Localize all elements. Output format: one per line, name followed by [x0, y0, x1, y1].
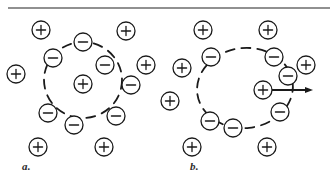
- shell-charges-b: [201, 48, 297, 137]
- charge-positive-background: [259, 21, 277, 39]
- panel-b: [161, 21, 315, 156]
- charge-negative-shell: [279, 67, 297, 85]
- charge-screening-diagram: [0, 0, 336, 180]
- charge-positive-background: [161, 92, 179, 110]
- charge-positive-background: [297, 56, 315, 74]
- charge-positive-background: [194, 21, 212, 39]
- charge-negative-shell: [271, 103, 289, 121]
- charge-positive-central: [74, 75, 92, 93]
- charge-positive-background: [7, 65, 25, 83]
- charge-positive-background: [173, 59, 191, 77]
- charge-negative-shell: [201, 112, 219, 130]
- charge-negative-shell: [107, 107, 125, 125]
- charge-negative-shell: [96, 56, 114, 74]
- charge-negative-shell: [202, 48, 220, 66]
- charge-negative-shell: [65, 116, 83, 134]
- panel-label-b: b.: [190, 160, 199, 172]
- figure-container: a. b.: [0, 0, 336, 180]
- charge-negative-shell: [122, 76, 140, 94]
- charge-negative-shell: [265, 48, 283, 66]
- charge-positive-background: [258, 138, 276, 156]
- charge-positive-background: [137, 56, 155, 74]
- panel-a: [7, 21, 155, 156]
- charge-positive-background: [32, 21, 50, 39]
- charge-negative-shell: [39, 104, 57, 122]
- panel-label-a: a.: [22, 160, 31, 172]
- charge-positive-background: [117, 22, 135, 40]
- charge-positive-background: [29, 138, 47, 156]
- charge-positive-central: [254, 81, 272, 99]
- charge-negative-shell: [44, 49, 62, 67]
- velocity-arrow-head: [305, 87, 313, 93]
- charge-positive-background: [183, 138, 201, 156]
- charge-negative-shell: [74, 33, 92, 51]
- charge-positive-background: [95, 138, 113, 156]
- charge-negative-shell: [224, 119, 242, 137]
